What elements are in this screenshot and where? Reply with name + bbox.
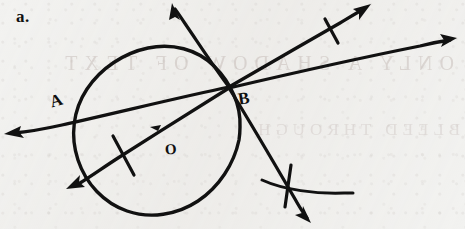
item-label: a. — [16, 8, 30, 25]
ray-secant-through-a — [4, 87, 229, 138]
point-label-b: B — [237, 89, 251, 108]
ray-upper-right-shallow — [229, 34, 457, 88]
scanned-worksheet-page: ONLY A SHADOW OF TEXT BLEED THROUGH — [0, 0, 465, 229]
geometry-figure — [0, 0, 465, 229]
center-label-o: O — [164, 142, 177, 158]
circle-shape — [74, 46, 240, 215]
diameter-through-center — [66, 88, 229, 189]
tick-mark — [113, 136, 134, 175]
ray-upper-right-steep — [229, 4, 371, 87]
construction-arc — [262, 180, 353, 193]
ray-upper-left — [169, 3, 229, 87]
